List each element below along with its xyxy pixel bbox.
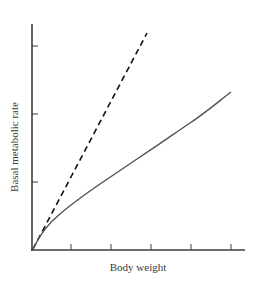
dashed-proportional-line: [33, 33, 147, 249]
x-axis-label: Body weight: [110, 261, 167, 273]
solid-allometric-curve: [33, 92, 231, 249]
chart: Body weight Basal metabolic rate: [0, 0, 259, 287]
y-axis-label: Basal metabolic rate: [8, 102, 20, 192]
